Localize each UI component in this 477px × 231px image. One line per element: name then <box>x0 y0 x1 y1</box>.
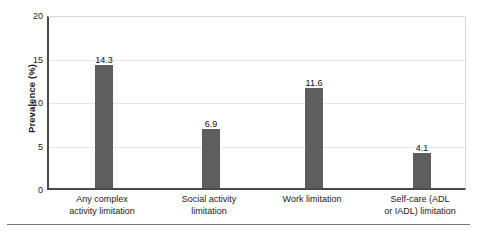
y-tick-label-0: 0 <box>15 186 43 195</box>
y-tick-label-10: 10 <box>15 99 43 108</box>
x-axis-category-labels: Any complex activity limitation Social a… <box>47 194 466 224</box>
bar-work-limitation[interactable] <box>305 88 323 188</box>
x-label-line-2: activity limitation <box>69 206 135 216</box>
x-label-line-1: Self-care (ADL <box>390 194 449 204</box>
y-tick-label-15: 15 <box>15 56 43 65</box>
x-label-any-complex-activity-limitation: Any complex activity limitation <box>43 194 161 217</box>
x-label-line-1: Any complex <box>76 194 128 204</box>
x-label-line-2: limitation <box>191 206 227 216</box>
x-label-line-2: or IADL) limitation <box>384 206 456 216</box>
bar-value-label-4: 4.1 <box>392 143 452 153</box>
bar-self-care-adl-iadl-limitation[interactable] <box>413 153 431 188</box>
x-label-line-1: Work limitation <box>283 194 342 204</box>
plot-area: 14.3 6.9 11.6 4.1 <box>47 16 466 190</box>
x-label-work-limitation: Work limitation <box>253 194 371 206</box>
y-tick-label-5: 5 <box>15 143 43 152</box>
bar-any-complex-activity-limitation[interactable] <box>95 65 113 188</box>
x-label-social-activity-limitation: Social activity limitation <box>150 194 268 217</box>
bottom-divider-rule <box>7 224 470 225</box>
y-axis-tick-labels: 20 15 10 5 0 <box>11 16 43 190</box>
bar-value-label-2: 6.9 <box>181 119 241 129</box>
x-label-line-1: Social activity <box>182 194 237 204</box>
bar-value-label-1: 14.3 <box>74 55 134 65</box>
bar-value-label-3: 11.6 <box>284 78 344 88</box>
bar-chart-figure: Prevalence (%) 20 15 10 5 0 14.3 6.9 11.… <box>0 0 477 231</box>
y-tick-label-20: 20 <box>15 12 43 21</box>
bar-social-activity-limitation[interactable] <box>202 129 220 188</box>
x-label-self-care-adl-iadl-limitation: Self-care (ADL or IADL) limitation <box>361 194 477 217</box>
